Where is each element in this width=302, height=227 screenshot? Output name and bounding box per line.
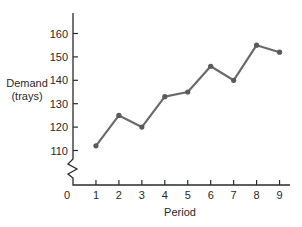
x-tick-label: 8 xyxy=(254,189,260,201)
x-axis-label: Period xyxy=(164,206,196,218)
x-ticks: 123456789 xyxy=(93,180,283,201)
y-tick-label: 130 xyxy=(50,98,68,110)
series-group xyxy=(93,43,282,149)
y-tick-label: 110 xyxy=(50,145,68,157)
data-point xyxy=(277,50,282,55)
x-tick-label: 2 xyxy=(116,189,122,201)
y-tick-label: 160 xyxy=(50,28,68,40)
axes xyxy=(68,13,290,185)
x-tick-label: 3 xyxy=(139,189,145,201)
x-tick-label: 1 xyxy=(93,189,99,201)
data-point xyxy=(93,143,98,148)
y-ticks: 110120130140150160 xyxy=(50,28,78,157)
data-point xyxy=(162,94,167,99)
data-point xyxy=(116,113,121,118)
x-tick-label: 9 xyxy=(276,189,282,201)
y-tick-label: 120 xyxy=(50,121,68,133)
axis-lines-with-break xyxy=(68,13,290,185)
data-point xyxy=(254,43,259,48)
x-tick-label: 7 xyxy=(231,189,237,201)
x-origin-label: 0 xyxy=(64,189,70,201)
y-axis-label-line1: Demand xyxy=(6,77,48,89)
y-tick-label: 150 xyxy=(50,51,68,63)
y-tick-label: 140 xyxy=(50,74,68,86)
series-line-demand xyxy=(96,45,280,146)
x-tick-label: 5 xyxy=(185,189,191,201)
data-point xyxy=(185,89,190,94)
data-point xyxy=(139,125,144,130)
data-point xyxy=(231,78,236,83)
x-tick-label: 6 xyxy=(208,189,214,201)
x-tick-label: 4 xyxy=(162,189,168,201)
data-point xyxy=(208,64,213,69)
demand-line-chart: 110120130140150160 123456789 0 Demand (t… xyxy=(0,0,302,227)
y-axis-label-line2: (trays) xyxy=(11,90,42,102)
